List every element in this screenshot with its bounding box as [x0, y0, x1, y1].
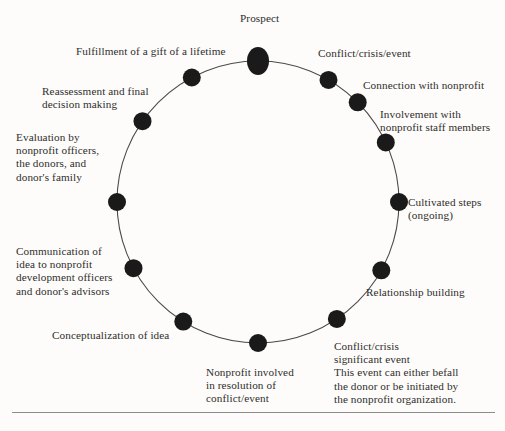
cycle-node-connection-with-nonprofit[interactable] — [349, 93, 367, 111]
cycle-label-relationship-building: Relationship building — [366, 286, 465, 299]
cycle-node-fulfillment-of-a-gift[interactable] — [183, 69, 201, 87]
cycle-node-cultivated-steps[interactable] — [390, 193, 408, 211]
cycle-node-conceptualization-of-idea[interactable] — [174, 313, 192, 331]
cycle-node-evaluation-by-nonprofit-officers[interactable] — [108, 193, 126, 211]
cycle-node-nonprofit-involved-resolution[interactable] — [249, 334, 267, 352]
cycle-node-relationship-building[interactable] — [372, 261, 390, 279]
cycle-node-conflict-crisis-event[interactable] — [320, 71, 338, 89]
cycle-label-conflict-crisis-significant-event: Conflict/crisis significant event This e… — [334, 340, 459, 406]
cycle-label-conflict-crisis-event: Conflict/crisis/event — [318, 47, 411, 60]
cycle-label-prospect: Prospect — [240, 12, 279, 25]
cycle-node-layer — [108, 47, 408, 352]
cycle-label-conceptualization-of-idea: Conceptualization of idea — [52, 329, 169, 342]
cycle-label-nonprofit-involved-resolution: Nonprofit involved in resolution of conf… — [206, 366, 294, 406]
cycle-label-cultivated-steps: Cultivated steps (ongoing) — [408, 196, 481, 222]
cycle-node-prospect[interactable] — [247, 47, 269, 75]
cycle-label-involvement-with-nonprofit-staff: Involvement with nonprofit staff members — [380, 108, 490, 134]
bottom-rule — [12, 412, 495, 413]
cycle-node-involvement-with-nonprofit-staff[interactable] — [377, 133, 395, 151]
cycle-node-conflict-crisis-significant-event[interactable] — [328, 310, 346, 328]
cycle-node-communication-of-idea[interactable] — [125, 259, 143, 277]
cycle-diagram: ProspectConflict/crisis/eventConnection … — [0, 0, 505, 431]
cycle-node-reassessment-and-final-decision[interactable] — [134, 112, 152, 130]
cycle-label-connection-with-nonprofit: Connection with nonprofit — [363, 79, 484, 92]
cycle-label-fulfillment-of-a-gift: Fulfillment of a gift of a lifetime — [76, 45, 226, 58]
cycle-label-reassessment-and-final-decision: Reassessment and final decision making — [42, 85, 149, 111]
cycle-label-evaluation-by-nonprofit-officers: Evaluation by nonprofit officers, the do… — [16, 131, 99, 184]
cycle-label-communication-of-idea: Communication of idea to nonprofit devel… — [16, 245, 113, 298]
